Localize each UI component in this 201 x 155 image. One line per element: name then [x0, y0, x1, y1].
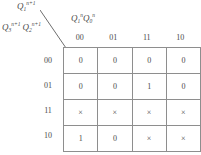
table-row: 0 0 1 0: [64, 74, 201, 100]
col-var-base-2: Q: [83, 13, 90, 23]
output-label-base: Q: [17, 1, 24, 11]
column-header-3: 10: [164, 33, 198, 42]
row-var-base-2: Q: [22, 22, 29, 32]
kmap-cell-r2c2: ×: [132, 100, 166, 126]
column-header-0: 00: [63, 33, 97, 42]
row-var-sup-1: n+1: [11, 21, 20, 27]
table-row: 1 0 × ×: [64, 126, 201, 152]
row-header-2: 11: [36, 106, 60, 115]
col-var-sub-1: 1: [78, 18, 81, 24]
karnaugh-map-figure: Q1n+1 Q1nQ0n Q3n+1Q2n+1 00 01 11 10 00 0…: [0, 0, 201, 155]
kmap-cell-r3c3: ×: [166, 126, 200, 152]
kmap-grid: 0 0 0 0 0 0 1 0 × × × × 1: [63, 47, 201, 152]
row-variable-label: Q3n+1Q2n+1: [2, 23, 41, 32]
column-header-2: 11: [130, 33, 164, 42]
kmap-cell-r0c0: 0: [64, 48, 98, 74]
col-var-sub-2: 0: [90, 18, 93, 24]
kmap-cell-r1c3: 0: [166, 74, 200, 100]
kmap-cell-r0c3: 0: [166, 48, 200, 74]
kmap-cell-r2c0: ×: [64, 100, 98, 126]
kmap-cell-r3c2: ×: [132, 126, 166, 152]
kmap-cell-r1c2: 1: [132, 74, 166, 100]
row-header-0: 00: [36, 56, 60, 65]
column-header-1: 01: [97, 33, 131, 42]
row-header-1: 01: [36, 81, 60, 90]
row-var-sub-2: 2: [29, 27, 32, 33]
table-row: 0 0 0 0: [64, 48, 201, 74]
column-variable-label: Q1nQ0n: [71, 14, 95, 23]
table-row: × × × ×: [64, 100, 201, 126]
kmap-cell-r3c0: 1: [64, 126, 98, 152]
kmap-cell-r1c0: 0: [64, 74, 98, 100]
kmap-cell-r0c1: 0: [98, 48, 132, 74]
output-label-superscript: n+1: [26, 0, 35, 6]
col-var-base-1: Q: [71, 13, 78, 23]
output-label-subscript: 1: [24, 6, 27, 12]
kmap-cell-r0c2: 0: [132, 48, 166, 74]
kmap-cell-r1c1: 0: [98, 74, 132, 100]
kmap-cell-r2c3: ×: [166, 100, 200, 126]
row-var-base-1: Q: [2, 22, 9, 32]
col-var-sup-2: n: [92, 12, 95, 18]
kmap-table: 0 0 0 0 0 0 1 0 × × × × 1: [63, 47, 201, 152]
row-header-3: 10: [36, 131, 60, 140]
output-function-label: Q1n+1: [17, 2, 35, 11]
kmap-cell-r2c1: ×: [98, 100, 132, 126]
col-var-sup-1: n: [80, 12, 83, 18]
row-var-sub-1: 3: [9, 27, 12, 33]
corner-diagonal-divider-icon: [40, 10, 66, 50]
kmap-cell-r3c1: 0: [98, 126, 132, 152]
